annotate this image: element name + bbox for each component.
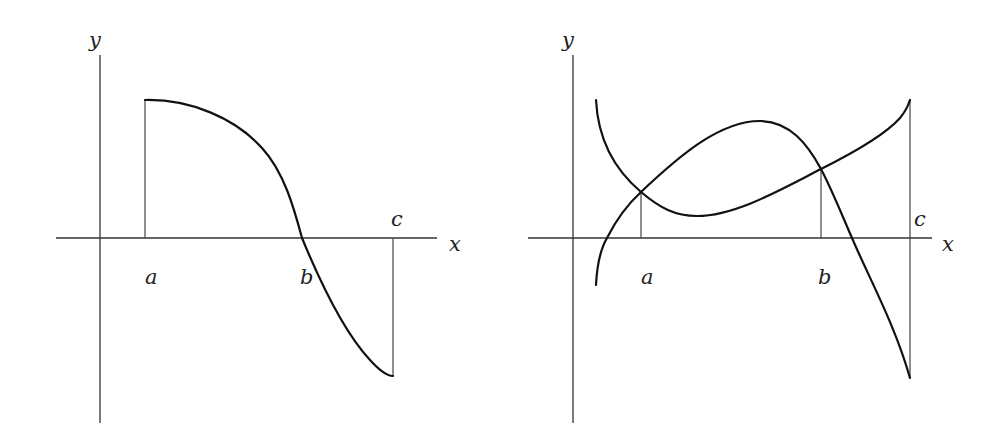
left-label-b: b [300,265,313,289]
left-label-x: x [449,232,461,256]
right-label-c: c [914,207,926,231]
figure: y x a b c y x a b c [0,0,1001,444]
right-curve-g [596,100,910,216]
left-plot: y x a b c [56,28,461,423]
left-label-a: a [145,265,158,289]
left-label-y: y [88,28,102,52]
right-curve-h [596,121,910,378]
right-label-x: x [942,232,954,256]
right-label-a: a [641,265,654,289]
right-plot: y x a b c [528,28,954,423]
right-label-y: y [561,28,575,52]
right-label-b: b [818,265,831,289]
left-label-c: c [391,207,403,231]
